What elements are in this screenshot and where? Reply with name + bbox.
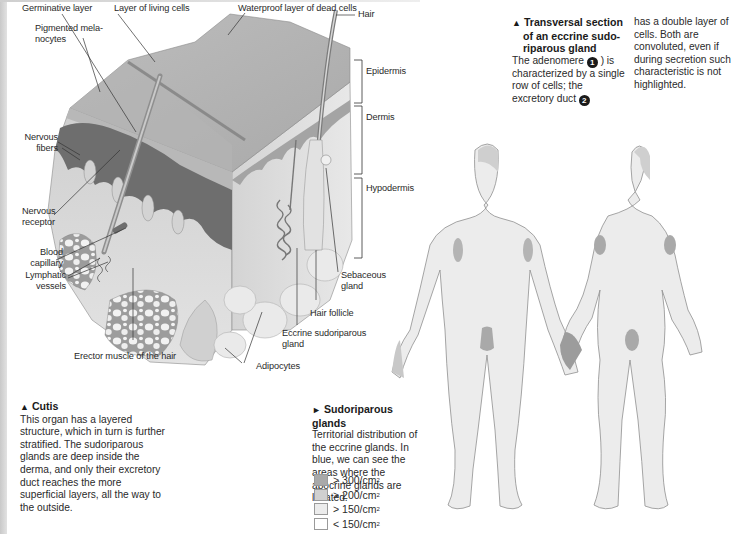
label-eccrine-gland: Eccrine sudoriparous gland [282, 328, 366, 350]
transversal-caption-title: ▲Transversal section of an eccrine sudo-… [512, 16, 626, 55]
legend-sup: 2 [376, 521, 379, 527]
triangle-up-icon: ▲ [20, 402, 29, 412]
label-line-1: Lymphatic [25, 270, 66, 280]
triangle-right-icon: ► [312, 405, 321, 415]
label-line-1: Nervous [24, 132, 58, 142]
swatch-300 [314, 474, 328, 486]
sudoriparous-caption-title: ►Sudoriparous glands [312, 403, 420, 429]
swatch-200 [314, 489, 328, 501]
label-sebaceous-gland: Sebaceous gland [341, 270, 386, 292]
label-pigmented-melanocytes: Pigmented mela- nocytes [35, 23, 103, 45]
label-line-2: nocytes [35, 34, 66, 44]
label-line-2: receptor [22, 217, 55, 227]
legend-item: > 150/cm2 [314, 502, 380, 517]
label-layer-living-cells: Layer of living cells [114, 3, 190, 14]
label-dermis: Dermis [366, 112, 395, 123]
label-germinative-layer: Germinative layer [22, 3, 92, 14]
transversal-section-caption-continued: has a double layer of cells. Both are co… [634, 16, 738, 92]
cutis-caption-title: ▲Cutis [20, 400, 170, 414]
label-line-1: Pigmented mela- [35, 23, 103, 33]
legend-label: < 150/cm [333, 518, 376, 530]
skin-cross-section [48, 10, 352, 365]
number-badge-1: 1 [587, 57, 598, 68]
label-hair: Hair [358, 9, 374, 20]
legend-label: > 300/cm [333, 474, 376, 486]
legend-sup: 2 [376, 506, 379, 512]
label-epidermis: Epidermis [366, 66, 406, 77]
label-line-1: Eccrine sudoriparous [282, 328, 366, 338]
caption-text-a: The adenomere [512, 55, 584, 66]
sudoriparous-title-text: Sudoriparous glands [312, 403, 393, 429]
legend-sup: 2 [376, 477, 379, 483]
label-line-2: fibers [36, 143, 58, 153]
legend-item: < 150/cm2 [314, 517, 380, 532]
label-line-2: gland [282, 339, 304, 349]
cutis-title-text: Cutis [32, 400, 58, 412]
label-line-2: gland [341, 281, 363, 291]
label-waterproof-layer: Waterproof layer of dead cells [238, 3, 357, 14]
legend-sup: 2 [376, 492, 379, 498]
cutis-caption-body: This organ has a layered structure, whic… [20, 414, 165, 513]
body-back-figure [560, 146, 702, 509]
label-nervous-fibers: Nervous fibers [20, 132, 58, 154]
cutis-caption: ▲Cutis This organ has a layered structur… [20, 400, 170, 514]
title-line-1: Transversal section [524, 16, 623, 28]
density-legend: > 300/cm2 > 200/cm2 > 150/cm2 < 150/cm2 [314, 473, 380, 531]
title-line-2: of an eccrine sudo- [512, 30, 620, 42]
label-hair-follicle: Hair follicle [310, 308, 354, 319]
triangle-up-icon: ▲ [512, 18, 521, 28]
legend-item: > 200/cm2 [314, 488, 380, 503]
legend-label: > 150/cm [333, 503, 376, 515]
label-line-2: capillary [30, 258, 63, 268]
legend-item: > 300/cm2 [314, 473, 380, 488]
label-nervous-receptor: Nervous receptor [22, 206, 56, 228]
label-line-1: Blood [40, 247, 63, 257]
swatch-150 [314, 503, 328, 515]
label-blood-capillary: Blood capillary [20, 247, 63, 269]
label-adipocytes: Adipocytes [256, 361, 300, 372]
swatch-under-150 [314, 518, 328, 530]
number-badge-2: 2 [579, 95, 590, 106]
layer-brackets [354, 60, 362, 258]
transversal-section-caption: ▲Transversal section of an eccrine sudo-… [512, 16, 626, 106]
legend-label: > 200/cm [333, 489, 376, 501]
label-lymphatic-vessels: Lymphatic vessels [20, 270, 66, 292]
title-line-3: riparous gland [512, 42, 597, 54]
label-line-1: Nervous [22, 206, 56, 216]
label-erector-muscle: Erector muscle of the hair [74, 351, 176, 362]
label-hypodermis: Hypodermis [366, 183, 414, 194]
label-line-1: Sebaceous [341, 270, 386, 280]
label-line-2: vessels [36, 281, 66, 291]
